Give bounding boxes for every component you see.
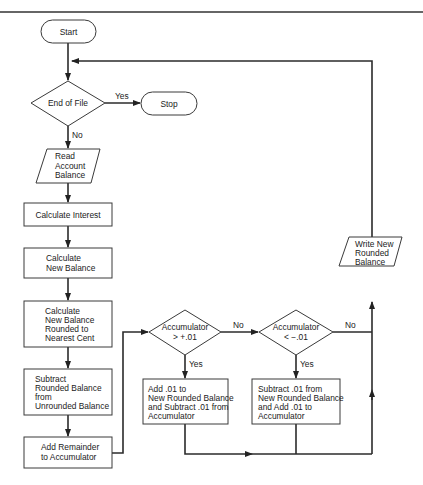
node-stop: Stop	[141, 92, 197, 115]
edge-add01-merge	[185, 424, 252, 454]
svg-text:Add Remainder: Add Remainder	[41, 442, 99, 452]
label-acclt-no: No	[345, 320, 356, 330]
svg-text:to Accumulator: to Accumulator	[41, 452, 97, 462]
svg-text:Accumulator: Accumulator	[258, 411, 305, 421]
node-read-account-balance: Read Account Balance	[36, 149, 100, 183]
svg-text:Account: Account	[55, 161, 86, 171]
svg-text:Stop: Stop	[160, 99, 178, 109]
svg-text:New Balance: New Balance	[46, 263, 96, 273]
svg-text:Unrounded Balance: Unrounded Balance	[35, 401, 109, 411]
node-calculate-new-balance: Calculate New Balance	[24, 248, 112, 278]
svg-text:Calculate Interest: Calculate Interest	[35, 210, 101, 220]
label-accgt-yes: Yes	[189, 359, 203, 369]
flowchart: Yes No No Yes No Yes Start End of File S…	[0, 0, 423, 485]
node-add-01: Add .01 to New Rounded Balance and Subtr…	[143, 379, 234, 424]
svg-text:Balance: Balance	[355, 257, 386, 267]
label-accgt-no: No	[233, 320, 244, 330]
svg-text:> +.01: > +.01	[173, 332, 197, 342]
node-end-of-file: End of File	[31, 81, 105, 126]
node-calculate-interest: Calculate Interest	[24, 203, 112, 226]
node-calculate-rounded: Calculate New Balance Rounded to Nearest…	[24, 301, 112, 347]
node-subtract-rounded: Subtract Rounded Balance from Unrounded …	[24, 369, 112, 415]
node-accumulator-lt: Accumulator < −.01	[259, 310, 333, 355]
svg-text:Nearest Cent: Nearest Cent	[45, 333, 95, 343]
node-subtract-01: Subtract .01 from New Rounded Balance an…	[252, 379, 344, 424]
node-accumulator-gt: Accumulator > +.01	[149, 310, 221, 355]
svg-text:Accumulator: Accumulator	[148, 411, 195, 421]
svg-text:Read: Read	[55, 151, 75, 161]
svg-text:Accumulator: Accumulator	[273, 322, 320, 332]
node-add-remainder: Add Remainder to Accumulator	[24, 437, 112, 468]
node-write-balance: Write New Rounded Balance	[339, 237, 402, 267]
svg-text:Start: Start	[60, 27, 78, 37]
svg-text:Calculate: Calculate	[46, 253, 81, 263]
label-eof-no: No	[72, 130, 83, 140]
svg-text:Balance: Balance	[55, 170, 86, 180]
svg-text:Accumulator: Accumulator	[162, 322, 209, 332]
svg-text:End of File: End of File	[48, 98, 88, 108]
label-acclt-yes: Yes	[300, 359, 314, 369]
node-start: Start	[41, 20, 96, 43]
label-eof-yes: Yes	[115, 91, 129, 101]
svg-text:< −.01: < −.01	[284, 332, 308, 342]
